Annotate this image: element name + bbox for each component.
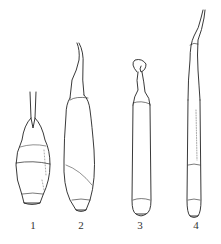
specimen-drawings <box>0 0 221 244</box>
specimen-label-4: 4 <box>189 219 203 231</box>
specimen-label-2: 2 <box>74 219 88 231</box>
specimen-label-3: 3 <box>133 219 147 231</box>
specimen-label-1: 1 <box>26 219 40 231</box>
specimen-2-drawing <box>64 43 95 212</box>
specimen-1-drawing <box>16 92 50 205</box>
specimen-4-drawing <box>187 10 205 218</box>
specimen-3-drawing <box>132 60 151 217</box>
